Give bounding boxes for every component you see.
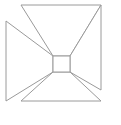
- pinwheel-cross-figure: [0, 0, 121, 125]
- center-square-polygon: [53, 56, 70, 72]
